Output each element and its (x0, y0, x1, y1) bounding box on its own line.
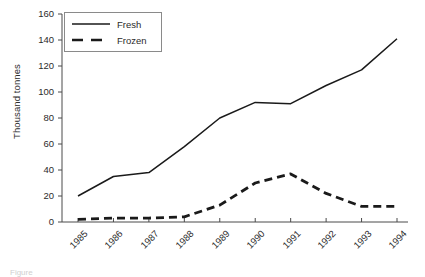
legend-entry-fresh: Fresh (71, 17, 141, 31)
x-axis-tick-marks (78, 218, 397, 222)
figure-caption: Figure (10, 268, 420, 277)
series-line-frozen (78, 174, 397, 220)
chart-legend: Fresh Frozen (64, 12, 162, 52)
legend-label-fresh: Fresh (117, 19, 141, 30)
legend-line-sample-dashed (71, 35, 111, 45)
series-line-fresh (78, 39, 397, 196)
data-series-group (78, 39, 397, 220)
figure-container: Thousand tonnes 160140120100806040200 19… (0, 0, 425, 277)
legend-entry-frozen: Frozen (71, 33, 147, 47)
y-axis-tick-marks (58, 14, 62, 222)
legend-label-frozen: Frozen (117, 35, 147, 46)
legend-line-sample-solid (71, 19, 111, 29)
